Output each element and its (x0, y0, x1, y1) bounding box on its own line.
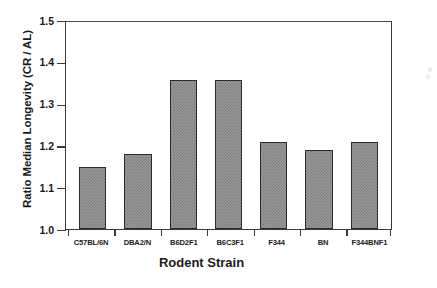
bar-dba2-n[interactable] (124, 154, 151, 229)
y-axis-title: Ratio Median Longevity (CR / AL) (21, 9, 33, 229)
bar-bn[interactable] (305, 150, 332, 229)
x-tick-mark (68, 230, 69, 236)
plot-area (65, 21, 392, 230)
x-tick-mark (161, 230, 162, 236)
y-tick-label: 1.3 (14, 99, 54, 110)
y-tick-label: 1.5 (14, 16, 54, 27)
bar-c57bl-6n[interactable] (79, 167, 106, 229)
bar-slot (251, 22, 296, 229)
bar-slot (115, 22, 160, 229)
bar-slot (342, 22, 387, 229)
x-tick-mark (254, 230, 255, 236)
y-tick-label: 1.2 (14, 141, 54, 152)
y-tick-mark (57, 230, 66, 231)
y-tick-label: 1.0 (14, 225, 54, 236)
x-axis-title: Rodent Strain (0, 255, 403, 270)
x-tick-mark (207, 230, 208, 236)
bar-slot (296, 22, 341, 229)
x-tick-label-f344bnf1: F344BNF1 (332, 238, 406, 247)
y-tick-label: 1.1 (14, 183, 54, 194)
bar-f344bnf1[interactable] (351, 142, 378, 229)
bar-b6c3f1[interactable] (215, 80, 242, 229)
x-tick-mark (390, 230, 391, 236)
x-tick-mark (114, 230, 115, 236)
bar-slot (161, 22, 206, 229)
scan-artifact (420, 60, 437, 84)
bar-f344[interactable] (260, 142, 287, 229)
bar-b6d2f1[interactable] (170, 80, 197, 229)
y-tick-label: 1.4 (14, 57, 54, 68)
bar-series (66, 22, 391, 229)
x-tick-mark (300, 230, 301, 236)
bar-slot (206, 22, 251, 229)
x-tick-mark (346, 230, 347, 236)
bar-slot (70, 22, 115, 229)
